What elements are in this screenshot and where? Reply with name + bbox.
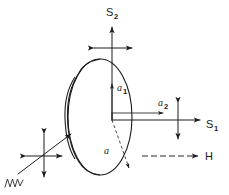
labels-group: S 2 S 1 H a 1 a 2 a <box>104 6 218 162</box>
s1-label-subscript: 1 <box>214 124 218 133</box>
disc-thickness-edge <box>65 77 75 159</box>
zigzag-path <box>5 179 23 187</box>
alpha-label: a <box>104 145 109 156</box>
diagram-canvas: S 2 S 1 H a 1 a 2 a <box>0 0 229 195</box>
a2-label: a <box>158 97 163 108</box>
optics-diagram: S 2 S 1 H a 1 a 2 a <box>0 0 229 195</box>
s2-label: S <box>106 6 113 18</box>
disc-bottom-rim <box>79 162 100 175</box>
disc-front-face <box>68 59 132 175</box>
disc-body <box>65 59 132 175</box>
a1-label: a <box>117 82 122 93</box>
a2-vector <box>112 113 163 120</box>
a1-label-subscript: 1 <box>123 87 127 96</box>
incident-polarization-cross <box>26 134 62 177</box>
h-label: H <box>205 150 213 162</box>
wave-source-zigzag <box>5 179 23 187</box>
s2-label-subscript: 2 <box>114 12 118 21</box>
disc-top-rim <box>79 59 100 73</box>
a2-label-subscript: 2 <box>164 102 168 111</box>
s1-label: S <box>206 118 213 130</box>
